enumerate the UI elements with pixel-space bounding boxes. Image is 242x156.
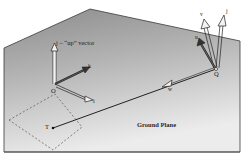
ground-plane-label: Ground Plane <box>137 121 176 128</box>
up-vector-shaft-fill <box>53 50 55 84</box>
target-point-dot <box>52 127 55 130</box>
camera-point-label: Q <box>214 70 219 77</box>
v-axis-label: v <box>200 11 203 17</box>
v-axis-arrowhead-icon <box>201 19 210 29</box>
k-axis-label: k <box>88 63 91 69</box>
w-vector-label: w <box>168 86 172 92</box>
j-axis-label: j <box>225 8 228 14</box>
origin-label: O <box>51 87 56 94</box>
up-vector-label: j – “up” vector <box>55 39 95 46</box>
j-axis-arrowhead-icon <box>218 15 226 26</box>
target-point-label: T <box>45 123 49 130</box>
ground-plane-diagram: j – “up” vector O k i Q v j u w T Ground… <box>0 0 242 156</box>
u-axis-label: u <box>195 34 198 40</box>
